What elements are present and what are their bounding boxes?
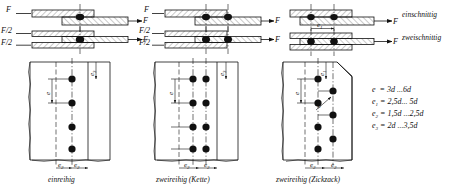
force-label-right-double-mid: F	[274, 35, 280, 44]
formula-block: e= 3d ...6d e1= 2,5d... 5d e2= 1,5d ...2…	[372, 85, 424, 131]
formula-symbol-e: e	[372, 85, 376, 94]
force-label-left-mid: F	[143, 5, 149, 14]
force-label-half-bottom: F/2	[0, 38, 12, 47]
dim-label-e2-right-kette: e2	[204, 161, 210, 170]
shear-diagram-double-left: F/2 F/2 F	[0, 26, 148, 54]
caption-einreihig: einreihig	[48, 175, 75, 184]
formula-value-e2: = 1,5d ...2,5d	[380, 109, 424, 118]
shear-diagram-double-middle: F/2 F/2 F	[138, 26, 280, 54]
formula-sub-e2: 2	[376, 114, 379, 119]
shear-diagram-single-left: F F	[5, 4, 148, 32]
panel-zweireihig-zickzack: e e1 e e2 e2 zweireihig (Zickzack)	[275, 58, 352, 184]
force-label-right-shear2: F	[392, 37, 398, 46]
force-label-left: F	[5, 5, 11, 14]
dim-label-e-kette: e	[167, 92, 175, 95]
formula-row-e1: e1= 2,5d... 5d	[372, 97, 418, 107]
force-label-right-mid: F	[274, 16, 280, 25]
caption-zweireihig-kette: zweireihig (Kette)	[155, 175, 210, 184]
label-einschnittig: einschnittig	[402, 10, 437, 19]
dim-label-e2-left-einreihig: e2	[58, 161, 64, 170]
force-label-half-bottom-mid: F/2	[138, 38, 150, 47]
formula-value-e3: = 2d ...3,5d	[380, 121, 418, 130]
shear-diagram-single-middle: F F	[143, 4, 280, 32]
formula-value-e: = 3d ...6d	[380, 85, 412, 94]
dim-label-e2-left-zickzack: e2	[310, 161, 316, 170]
formula-sub-e3: 3	[376, 126, 379, 131]
dim-label-e2-right-zickzack: e2	[331, 161, 337, 170]
formula-row-e3: e3= 2d ...3,5d	[372, 121, 418, 131]
force-label-right-shear1: F	[392, 17, 398, 26]
label-zweischnittig: zweischnittig	[401, 33, 441, 42]
shear-diagram-double-right: F zweischnittig	[290, 29, 441, 56]
formula-row-e: e= 3d ...6d	[372, 85, 412, 94]
panel-einreihig: e e3 e2 e2 einreihig	[29, 58, 111, 184]
caption-zweireihig-zickzack: zweireihig (Zickzack)	[275, 175, 341, 184]
dim-label-e-einreihig: e	[44, 92, 52, 95]
dim-label-e2-right-einreihig: e2	[74, 161, 80, 170]
force-label-half-top: F/2	[0, 26, 12, 35]
formula-row-e2: e2= 1,5d ...2,5d	[372, 109, 424, 119]
shear-diagram-single-right: F einschnittig	[290, 4, 437, 31]
force-label-right: F	[142, 16, 148, 25]
formula-value-e1: = 2,5d... 5d	[380, 97, 418, 106]
figure-root: F F F/2 F/2 F F F	[0, 0, 449, 192]
panel-zweireihig-kette: e e3 e2 e2 zweireihig (Kette)	[154, 58, 239, 184]
dim-label-e-zickzack: e	[293, 92, 301, 95]
formula-sub-e1: 1	[376, 102, 379, 107]
dim-label-e2-left-kette: e2	[184, 161, 190, 170]
force-label-half-top-mid: F/2	[138, 26, 150, 35]
